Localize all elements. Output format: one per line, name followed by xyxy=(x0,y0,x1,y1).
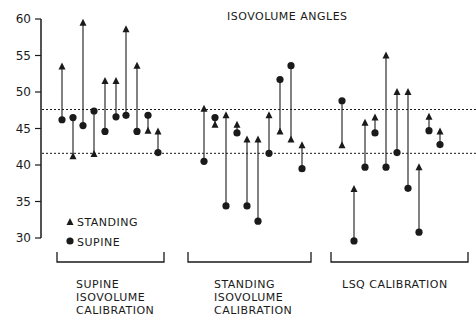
supine-circle-marker xyxy=(133,128,140,135)
standing-triangle-marker xyxy=(113,77,120,84)
supine-circle-marker xyxy=(425,127,432,134)
supine-circle-marker xyxy=(154,149,161,156)
supine-circle-marker xyxy=(79,122,86,129)
standing-triangle-marker xyxy=(266,111,273,118)
standing-triangle-marker xyxy=(339,141,346,148)
legend-standing-label: STANDING xyxy=(77,216,138,229)
group-label-line: LSQ CALIBRATION xyxy=(342,278,448,291)
standing-triangle-marker xyxy=(255,135,262,142)
standing-triangle-marker xyxy=(416,163,423,170)
standing-triangle-marker xyxy=(426,113,433,120)
y-tick-label: 60 xyxy=(16,12,31,26)
standing-triangle-marker xyxy=(201,105,208,112)
y-tick-label: 50 xyxy=(16,85,31,99)
standing-triangle-marker xyxy=(223,111,230,118)
supine-circle-marker xyxy=(66,237,73,244)
chart-title: ISOVOLUME ANGLES xyxy=(227,10,348,23)
supine-circle-marker xyxy=(287,62,294,69)
supine-circle-marker xyxy=(338,97,345,104)
y-tick-label: 30 xyxy=(16,231,31,245)
group-label-line: STANDING xyxy=(214,278,292,291)
supine-circle-marker xyxy=(90,107,97,114)
supine-circle-marker xyxy=(243,202,250,209)
supine-circle-marker xyxy=(371,129,378,136)
group-bracket xyxy=(188,252,311,262)
supine-circle-marker xyxy=(404,185,411,192)
standing-triangle-marker xyxy=(59,62,66,69)
supine-circle-marker xyxy=(436,141,443,148)
supine-circle-marker xyxy=(101,128,108,135)
group-label-lsq: LSQ CALIBRATION xyxy=(342,278,448,291)
standing-triangle-marker xyxy=(67,218,74,225)
standing-triangle-marker xyxy=(288,135,295,142)
supine-circle-marker xyxy=(233,129,240,136)
supine-circle-marker xyxy=(69,114,76,121)
supine-circle-marker xyxy=(200,158,207,165)
standing-triangle-marker xyxy=(102,77,109,84)
standing-triangle-marker xyxy=(80,19,87,26)
group-label-line: CALIBRATION xyxy=(76,304,154,317)
group-label-supine: SUPINE ISOVOLUME CALIBRATION xyxy=(76,278,154,317)
supine-circle-marker xyxy=(298,165,305,172)
group-label-line: CALIBRATION xyxy=(214,304,292,317)
supine-circle-marker xyxy=(393,149,400,156)
standing-triangle-marker xyxy=(405,88,412,95)
group-label-line: ISOVOLUME xyxy=(76,291,154,304)
supine-circle-marker xyxy=(58,116,65,123)
supine-circle-marker xyxy=(144,112,151,119)
group-label-line: ISOVOLUME xyxy=(214,291,292,304)
supine-circle-marker xyxy=(211,114,218,121)
supine-circle-marker xyxy=(382,164,389,171)
y-tick-label: 35 xyxy=(16,195,31,209)
standing-triangle-marker xyxy=(134,62,141,69)
standing-triangle-marker xyxy=(212,121,219,128)
standing-triangle-marker xyxy=(155,127,162,134)
y-tick-label: 45 xyxy=(16,122,31,136)
standing-triangle-marker xyxy=(244,135,251,142)
standing-triangle-marker xyxy=(351,185,358,192)
supine-circle-marker xyxy=(350,237,357,244)
standing-triangle-marker xyxy=(277,127,284,134)
supine-circle-marker xyxy=(222,202,229,209)
chart-canvas: 30354045505560 xyxy=(0,0,476,323)
standing-triangle-marker xyxy=(123,25,130,32)
standing-triangle-marker xyxy=(145,127,152,134)
group-label-standing: STANDING ISOVOLUME CALIBRATION xyxy=(214,278,292,317)
standing-triangle-marker xyxy=(394,88,401,95)
group-label-line: SUPINE xyxy=(76,278,154,291)
standing-triangle-marker xyxy=(362,119,369,126)
y-tick-label: 55 xyxy=(16,49,31,63)
supine-circle-marker xyxy=(122,112,129,119)
supine-circle-marker xyxy=(254,218,261,225)
supine-circle-marker xyxy=(276,76,283,83)
supine-circle-marker xyxy=(265,150,272,157)
supine-circle-marker xyxy=(361,164,368,171)
legend-supine-label: SUPINE xyxy=(77,236,120,249)
standing-triangle-marker xyxy=(383,52,390,59)
group-bracket xyxy=(57,252,164,262)
standing-triangle-marker xyxy=(437,127,444,134)
supine-circle-marker xyxy=(112,113,119,120)
standing-triangle-marker xyxy=(372,114,379,121)
standing-triangle-marker xyxy=(299,141,306,148)
group-bracket xyxy=(331,252,468,262)
standing-triangle-marker xyxy=(234,121,241,128)
y-tick-label: 40 xyxy=(16,158,31,172)
supine-circle-marker xyxy=(415,229,422,236)
